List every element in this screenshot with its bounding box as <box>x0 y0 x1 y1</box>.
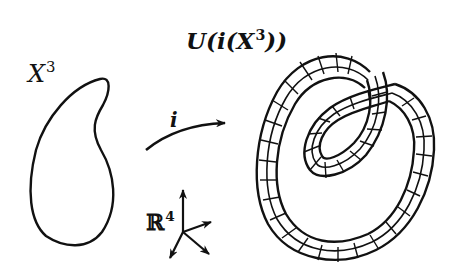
ambient-space-exponent: 4 <box>165 208 174 224</box>
map-label: i <box>170 110 178 130</box>
manifold-label-exponent: 3 <box>46 58 55 76</box>
manifold-curve <box>31 79 114 246</box>
neighborhood-inner: i( <box>217 27 237 54</box>
manifold-label: X3 <box>28 60 56 86</box>
ambient-space-label: ℝ4 <box>146 210 175 233</box>
neighborhood-base: X <box>237 27 255 54</box>
ambient-space-base: ℝ <box>146 209 164 235</box>
axes-icon <box>170 190 211 258</box>
neighborhood-label: U(i(X3)) <box>186 28 287 52</box>
manifold-label-base: X <box>28 60 45 88</box>
diagram-canvas: X3 i U(i(X3)) ℝ4 <box>0 0 460 280</box>
neighborhood-suffix: )) <box>265 27 287 54</box>
embedding-arrow <box>146 123 225 150</box>
tubular-neighborhood <box>257 53 434 262</box>
neighborhood-exponent: 3 <box>255 27 265 43</box>
neighborhood-prefix: U( <box>186 27 217 54</box>
